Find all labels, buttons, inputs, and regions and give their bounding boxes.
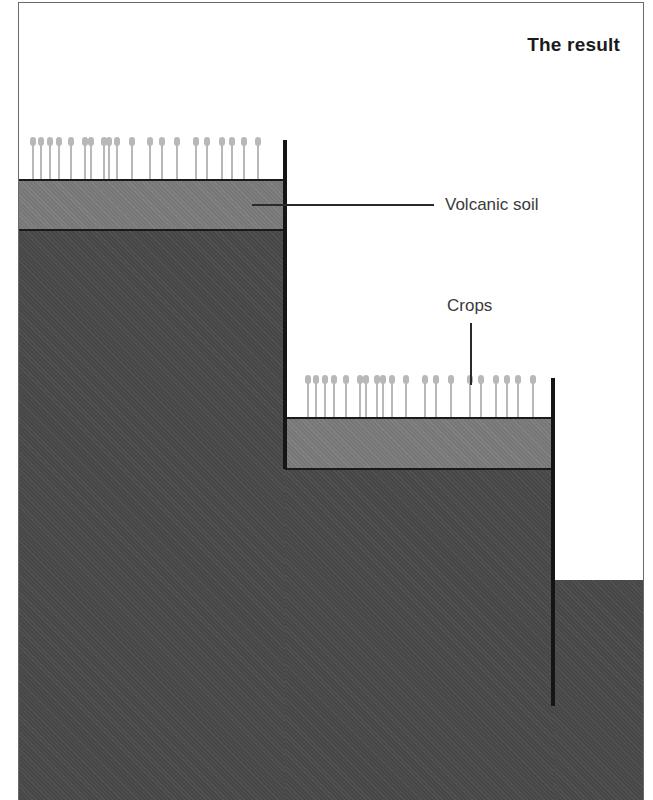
ground-middle-block	[285, 468, 553, 800]
crop-plant-icon	[517, 378, 519, 417]
ground-upper-block	[19, 229, 285, 800]
crop-plant-icon	[70, 140, 72, 179]
crop-plant-icon	[231, 140, 233, 179]
crop-plant-icon	[359, 378, 361, 417]
crop-plant-icon	[315, 378, 317, 417]
crop-plant-icon	[307, 378, 309, 417]
crop-plant-icon	[365, 378, 367, 417]
crop-plant-icon	[90, 140, 92, 179]
crop-plant-icon	[376, 378, 378, 417]
crop-plant-icon	[532, 378, 534, 417]
diagram-title: The result	[527, 34, 620, 56]
crop-plant-icon	[206, 140, 208, 179]
crop-plant-icon	[435, 378, 437, 417]
volcanic-soil-leader-line	[252, 204, 434, 206]
crop-plant-icon	[195, 140, 197, 179]
crops-leader-line	[470, 323, 472, 385]
crop-plant-icon	[49, 140, 51, 179]
crop-plant-icon	[391, 378, 393, 417]
crops-label: Crops	[447, 296, 492, 316]
crop-plant-icon	[450, 378, 452, 417]
volcanic-soil-label: Volcanic soil	[445, 195, 539, 215]
crop-plant-icon	[176, 140, 178, 179]
crop-plant-icon	[103, 140, 105, 179]
crop-plant-icon	[58, 140, 60, 179]
retaining-wall-upper	[283, 140, 287, 469]
crop-plant-icon	[161, 140, 163, 179]
crop-plant-icon	[243, 140, 245, 179]
ground-lower-block	[553, 580, 643, 800]
crop-plant-icon	[116, 140, 118, 179]
crop-plant-icon	[84, 140, 86, 179]
crop-plant-icon	[131, 140, 133, 179]
volcanic-soil-upper	[19, 179, 285, 231]
crop-plant-icon	[345, 378, 347, 417]
crop-plant-icon	[495, 378, 497, 417]
crop-plant-icon	[32, 140, 34, 179]
crop-plant-icon	[108, 140, 110, 179]
volcanic-soil-lower	[285, 417, 553, 470]
crop-plant-icon	[149, 140, 151, 179]
crop-plant-icon	[506, 378, 508, 417]
crop-plant-icon	[424, 378, 426, 417]
crop-plant-icon	[221, 140, 223, 179]
crop-plant-icon	[382, 378, 384, 417]
crop-plant-icon	[480, 378, 482, 417]
retaining-wall-lower	[551, 378, 555, 706]
crop-plant-icon	[40, 140, 42, 179]
crop-plant-icon	[324, 378, 326, 417]
crop-plant-icon	[405, 378, 407, 417]
crop-plant-icon	[257, 140, 259, 179]
crop-plant-icon	[333, 378, 335, 417]
